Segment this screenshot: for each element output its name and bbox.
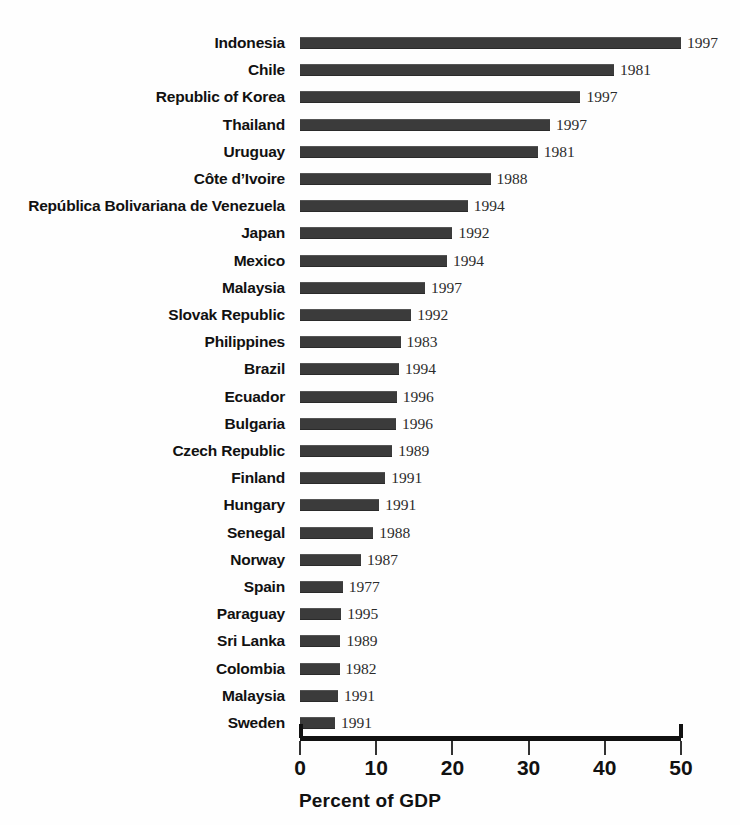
bar-row: Sweden1991 <box>0 710 740 736</box>
bar <box>300 282 425 294</box>
bar <box>300 717 335 729</box>
bar-value-label: 1991 <box>341 710 372 736</box>
bar <box>300 663 340 675</box>
bar-value-label: 1994 <box>474 193 505 219</box>
category-label: Sweden <box>228 710 285 736</box>
bar <box>300 363 399 375</box>
x-tick <box>375 741 377 755</box>
bar-row: Uruguay1981 <box>0 139 740 165</box>
bar-row: Colombia1982 <box>0 656 740 682</box>
bar-value-label: 1981 <box>544 139 575 165</box>
bar <box>300 391 397 403</box>
x-axis-title: Percent of GDP <box>0 790 740 812</box>
category-label: Philippines <box>205 329 285 355</box>
bar <box>300 200 468 212</box>
category-label: Ecuador <box>224 384 285 410</box>
bar <box>300 499 379 511</box>
x-tick-label: 40 <box>593 756 616 780</box>
bar-value-label: 1997 <box>556 112 587 138</box>
bar-row: Republic of Korea1997 <box>0 84 740 110</box>
category-label: Japan <box>241 220 285 246</box>
bar <box>300 336 401 348</box>
bar-value-label: 1977 <box>349 574 380 600</box>
bar-row: Czech Republic1989 <box>0 438 740 464</box>
bar-value-label: 1991 <box>391 465 422 491</box>
x-tick-label: 0 <box>294 756 306 780</box>
bar <box>300 418 396 430</box>
category-label: Spain <box>244 574 285 600</box>
x-tick <box>604 741 606 755</box>
x-tick-label: 30 <box>517 756 540 780</box>
bar-row: Brazil1994 <box>0 356 740 382</box>
category-label: Malaysia <box>222 683 285 709</box>
bar-value-label: 1997 <box>687 30 718 56</box>
bar-row: Ecuador1996 <box>0 384 740 410</box>
bar-row: Senegal1988 <box>0 520 740 546</box>
x-axis-left-cap <box>299 724 303 738</box>
bar-value-label: 1988 <box>379 520 410 546</box>
category-label: Finland <box>231 465 285 491</box>
bar-row: Spain1977 <box>0 574 740 600</box>
bar-row: Philippines1983 <box>0 329 740 355</box>
bar-value-label: 1996 <box>403 384 434 410</box>
bar <box>300 635 340 647</box>
bar-value-label: 1997 <box>431 275 462 301</box>
x-axis-line <box>300 736 681 741</box>
bar-row: República Bolivariana de Venezuela1994 <box>0 193 740 219</box>
bar <box>300 527 373 539</box>
category-label: Sri Lanka <box>217 628 285 654</box>
bar-value-label: 1989 <box>398 438 429 464</box>
bar-row: Hungary1991 <box>0 492 740 518</box>
bar-value-label: 1989 <box>346 628 377 654</box>
bar-row: Norway1987 <box>0 547 740 573</box>
category-label: Norway <box>230 547 285 573</box>
x-tick <box>299 741 301 755</box>
bar-row: Chile1981 <box>0 57 740 83</box>
bar-row: Malaysia1991 <box>0 683 740 709</box>
category-label: Bulgaria <box>225 411 285 437</box>
bar-value-label: 1981 <box>620 57 651 83</box>
bar-value-label: 1991 <box>344 683 375 709</box>
bar <box>300 119 550 131</box>
category-label: Colombia <box>216 656 285 682</box>
x-axis-right-cap <box>679 724 683 738</box>
bar-value-label: 1982 <box>346 656 377 682</box>
bar <box>300 472 385 484</box>
bar <box>300 581 343 593</box>
category-label: Hungary <box>224 492 285 518</box>
bar-value-label: 1992 <box>458 220 489 246</box>
bar <box>300 690 338 702</box>
bar <box>300 91 580 103</box>
bar-value-label: 1992 <box>417 302 448 328</box>
bar-value-label: 1997 <box>586 84 617 110</box>
bar-row: Slovak Republic1992 <box>0 302 740 328</box>
category-label: Czech Republic <box>172 438 285 464</box>
category-label: Thailand <box>223 112 285 138</box>
bar <box>300 227 452 239</box>
bar-row: Thailand1997 <box>0 112 740 138</box>
category-label: Senegal <box>227 520 285 546</box>
x-tick-label: 50 <box>669 756 692 780</box>
bar-value-label: 1987 <box>367 547 398 573</box>
category-label: República Bolivariana de Venezuela <box>28 193 285 219</box>
plot-area: Indonesia1997Chile1981Republic of Korea1… <box>0 0 740 825</box>
bar <box>300 146 538 158</box>
bar-value-label: 1996 <box>402 411 433 437</box>
bar-value-label: 1995 <box>347 601 378 627</box>
bar-row: Sri Lanka1989 <box>0 628 740 654</box>
bar <box>300 64 614 76</box>
bar-row: Japan1992 <box>0 220 740 246</box>
category-label: Malaysia <box>222 275 285 301</box>
bar-row: Mexico1994 <box>0 248 740 274</box>
bar <box>300 173 491 185</box>
bar-value-label: 1994 <box>453 248 484 274</box>
category-label: Uruguay <box>224 139 285 165</box>
bar-value-label: 1983 <box>407 329 438 355</box>
bar <box>300 309 411 321</box>
bar-row: Malaysia1997 <box>0 275 740 301</box>
bar-row: Bulgaria1996 <box>0 411 740 437</box>
category-label: Paraguay <box>217 601 285 627</box>
bar-chart: Indonesia1997Chile1981Republic of Korea1… <box>0 0 740 825</box>
x-tick-label: 20 <box>441 756 464 780</box>
x-tick <box>451 741 453 755</box>
